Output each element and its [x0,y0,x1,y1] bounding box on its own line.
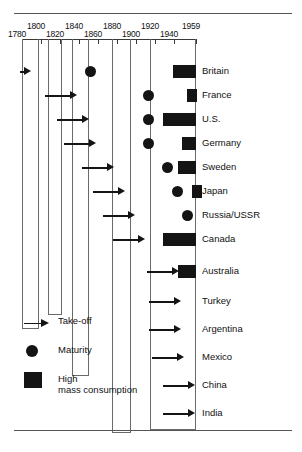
timeline-chart: 1780180018201840186018801900192019401959… [0,0,302,452]
maturity-dot-france [143,90,154,101]
axis-tick-label-1840: 1840 [65,22,83,31]
maturity-dot-japan [172,186,183,197]
high-mass-consumption-bar-canada [163,233,196,246]
country-label-argentina: Argentina [202,324,243,334]
legend-item-high-mass-consumption: High mass consumption [24,371,174,400]
maturity-dot-russia-ussr [182,210,193,221]
takeoff-arrow-germany [64,139,97,148]
takeoff-arrow-russia-ussr [103,211,136,220]
axis-tick-label-1959: 1959 [182,22,200,31]
takeoff-arrow-japan [93,187,126,196]
takeoff-arrow-france [45,91,78,100]
legend-label-line1: High [58,373,78,384]
axis-tick-label-1820: 1820 [46,30,64,39]
takeoff-arrow-sweden [82,163,115,172]
top-divider-rule [14,13,292,14]
maturity-dot-germany [143,138,154,149]
high-mass-consumption-bar-britain [173,65,196,78]
country-label-france: France [202,90,232,100]
legend-arrow-icon [24,313,50,331]
legend-label-high-mass-consumption: High mass consumption [58,373,137,395]
legend-item-maturity: Maturity [24,342,174,371]
legend-item-takeoff: Take-off [24,313,174,342]
country-label-india: India [202,408,223,418]
legend: Take-off Maturity High mass consumption [24,313,174,400]
country-label-russia-ussr: Russia/USSR [202,210,260,220]
country-label-britain: Britain [202,66,229,76]
takeoff-arrow-u-s- [57,115,90,124]
axis-tick-label-1800: 1800 [27,22,45,31]
maturity-dot-britain [85,66,96,77]
country-label-mexico: Mexico [202,352,232,362]
high-mass-consumption-bar-france [187,89,197,102]
high-mass-consumption-bar-australia [178,265,196,278]
high-mass-consumption-bar-sweden [178,161,196,174]
country-label-turkey: Turkey [202,296,231,306]
takeoff-arrow-britain [20,67,32,76]
takeoff-arrow-australia [147,267,180,276]
maturity-dot-u-s- [143,114,154,125]
high-mass-consumption-bar-u-s- [163,113,196,126]
axis-tick-label-1940: 1940 [160,30,178,39]
takeoff-arrow-canada [113,235,146,244]
grid-tube-1 [48,39,62,315]
legend-dot-icon [24,342,50,360]
high-mass-consumption-bar-japan [192,185,202,198]
country-label-australia: Australia [202,266,239,276]
country-label-sweden: Sweden [202,162,236,172]
axis-tick-label-1780: 1780 [8,30,26,39]
legend-box-icon [24,371,50,389]
axis-tick-label-1920: 1920 [141,22,159,31]
grid-tube-0 [22,39,39,329]
takeoff-arrow-turkey [149,297,182,306]
axis-tick-label-1900: 1900 [122,30,140,39]
bottom-divider-rule [14,430,292,431]
legend-label-maturity: Maturity [58,344,92,355]
country-label-canada: Canada [202,234,235,244]
axis-tick-label-1880: 1880 [103,22,121,31]
country-label-china: China [202,380,227,390]
legend-label-takeoff: Take-off [58,315,92,326]
country-label-u-s-: U.S. [202,114,220,124]
country-label-japan: Japan [202,186,228,196]
high-mass-consumption-bar-germany [182,137,196,150]
axis-tick-label-1860: 1860 [84,30,102,39]
country-label-germany: Germany [202,138,241,148]
legend-label-line2: mass consumption [58,384,137,395]
takeoff-arrow-india [163,409,196,418]
